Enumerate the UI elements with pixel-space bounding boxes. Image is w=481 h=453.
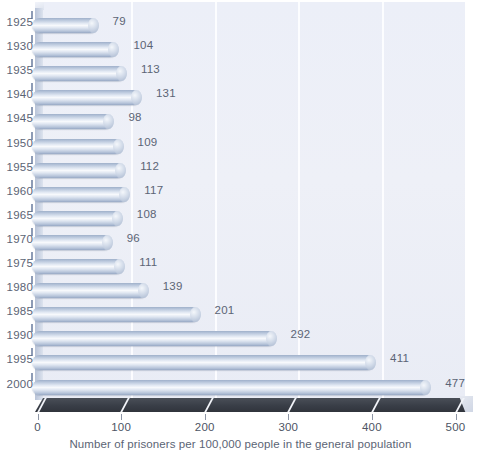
year-axis-label: 1960 (0, 185, 33, 197)
bar-row: 113 (38, 59, 132, 83)
bar-row: 117 (38, 180, 136, 204)
year-axis-label: 1965 (0, 209, 33, 221)
x-axis-tick (288, 414, 289, 420)
year-axis-label: 1990 (0, 329, 33, 341)
bar-value-label: 79 (113, 15, 126, 27)
bar-value-label: 201 (215, 304, 235, 316)
bar-row: 108 (38, 204, 128, 228)
bar-row: 477 (38, 373, 437, 397)
year-axis-label: 1935 (0, 64, 33, 76)
prisoner-rate-bar-chart: 7910411313198109112117108961111392012924… (0, 0, 481, 453)
bar-row: 139 (38, 276, 154, 300)
bar-row: 109 (38, 132, 129, 156)
year-axis-label: 1950 (0, 137, 33, 149)
bar-row: 411 (38, 348, 382, 372)
x-axis-tick (38, 414, 39, 420)
bar-end-cap (190, 307, 201, 322)
bar-value-label: 117 (144, 184, 163, 196)
bar-end-cap (365, 355, 376, 370)
bar-value-label: 96 (127, 232, 140, 244)
year-axis-label: 1975 (0, 257, 33, 269)
bar-end-cap (138, 283, 149, 298)
x-axis-tick (121, 414, 122, 420)
year-axis-label: 1930 (0, 40, 33, 52)
bar-end-cap (103, 114, 114, 129)
bar-cylinder (32, 139, 123, 154)
bar-end-cap (116, 66, 127, 81)
x-axis-tick-label: 200 (195, 421, 215, 433)
bar-cylinder (32, 187, 130, 202)
bar-end-cap (112, 211, 123, 226)
year-axis-label: 1955 (0, 161, 33, 173)
bar-cylinder (32, 211, 122, 226)
bar-row: 201 (38, 300, 206, 324)
bar-end-cap (108, 42, 119, 57)
bar-end-cap (420, 380, 431, 395)
bar-end-cap (266, 331, 277, 346)
year-axis-label: 1970 (0, 233, 33, 245)
bar-value-label: 111 (139, 256, 157, 268)
bar-end-cap (114, 259, 125, 274)
bar-value-label: 112 (140, 160, 159, 172)
x-axis-tick-label: 100 (111, 421, 131, 433)
chart-floor (35, 398, 473, 412)
bar-end-cap (119, 187, 130, 202)
bar-cylinder (32, 259, 125, 274)
x-axis-tick (456, 414, 457, 420)
x-axis-tick (205, 414, 206, 420)
bar-value-label: 113 (141, 63, 160, 75)
year-axis-label: 1940 (0, 88, 33, 100)
bar-cylinder (32, 307, 200, 322)
bar-value-label: 292 (291, 328, 311, 340)
bar-end-cap (131, 90, 142, 105)
x-axis-tick-label: 0 (34, 421, 41, 433)
bar-end-cap (88, 18, 99, 33)
year-axis-label: 1995 (0, 353, 33, 365)
bar-cylinder (32, 42, 119, 57)
bar-row: 112 (38, 156, 132, 180)
gridline-400 (382, 2, 384, 398)
year-axis-label: 1945 (0, 112, 33, 124)
bar-value-label: 109 (138, 136, 158, 148)
bar-cylinder (32, 163, 126, 178)
bar-value-label: 131 (156, 87, 176, 99)
year-axis-label: 1985 (0, 305, 33, 317)
year-axis-label: 1980 (0, 281, 33, 293)
bar-row: 131 (38, 83, 148, 107)
bar-row: 111 (38, 252, 131, 276)
x-axis-tick-label: 400 (362, 421, 382, 433)
bar-end-cap (102, 235, 113, 250)
x-axis-title: Number of prisoners per 100,000 people i… (0, 438, 481, 450)
bar-row: 79 (38, 11, 104, 35)
bar-cylinder (32, 380, 431, 395)
bar-end-cap (113, 139, 124, 154)
year-axis-label: 1925 (0, 16, 33, 28)
x-axis-tick-label: 500 (446, 421, 466, 433)
bar-row: 98 (38, 107, 120, 131)
bar-cylinder (32, 114, 114, 129)
bar-row: 96 (38, 228, 118, 252)
bar-value-label: 104 (133, 39, 153, 51)
bar-cylinder (32, 235, 112, 250)
bar-cylinder (32, 331, 276, 346)
bar-value-label: 108 (137, 208, 157, 220)
x-axis-tick-label: 300 (278, 421, 298, 433)
bar-end-cap (115, 163, 126, 178)
bar-value-label: 139 (163, 280, 183, 292)
bar-row: 292 (38, 324, 282, 348)
bar-cylinder (32, 66, 126, 81)
bar-value-label: 98 (128, 111, 141, 123)
bar-cylinder (32, 283, 148, 298)
year-axis-label: 2000 (0, 378, 33, 390)
bar-cylinder (32, 18, 98, 33)
bar-row: 104 (38, 35, 125, 59)
bar-value-label: 477 (445, 377, 465, 389)
x-axis-tick (372, 414, 373, 420)
bar-cylinder (32, 90, 142, 105)
bar-cylinder (32, 355, 376, 370)
bar-value-label: 411 (390, 352, 409, 364)
